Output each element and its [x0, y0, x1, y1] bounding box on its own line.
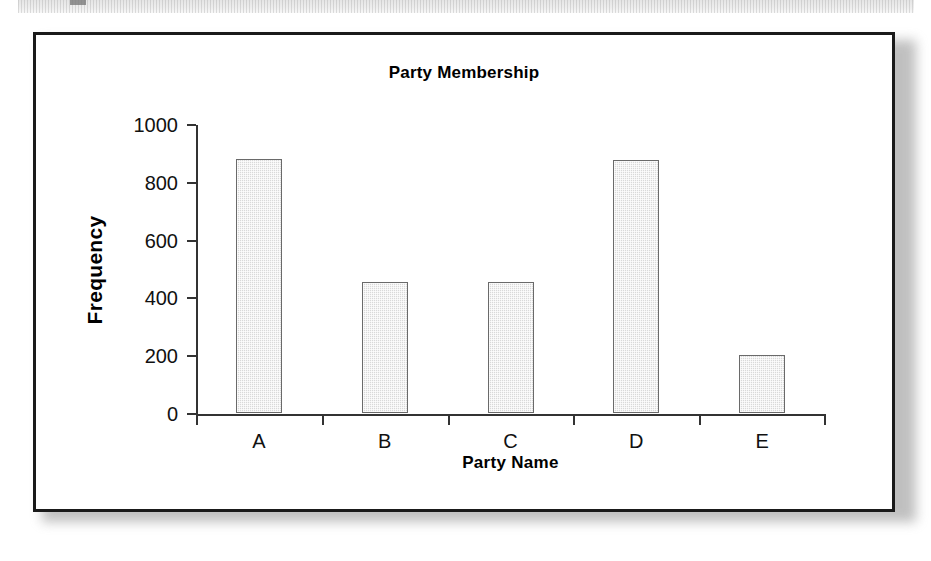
x-axis-tick: [196, 416, 198, 425]
x-axis-tick-label: C: [503, 430, 517, 453]
bar-a: [236, 159, 282, 413]
x-axis-title: Party Name: [196, 453, 825, 473]
y-axis-tick: 200: [187, 355, 196, 357]
y-axis-tick: 800: [187, 182, 196, 184]
x-axis-tick: [322, 416, 324, 425]
y-axis-tick: 1000: [187, 124, 196, 126]
x-axis-tick-label: A: [252, 430, 265, 453]
y-axis-tick-label: 400: [145, 287, 178, 310]
bar-c: [488, 282, 534, 413]
x-axis-tick-label: E: [755, 430, 768, 453]
y-axis-title: Frequency: [82, 125, 108, 415]
x-axis-tick: [448, 416, 450, 425]
y-axis-tick-label: 1000: [134, 114, 179, 137]
bar-b: [362, 282, 408, 413]
bar-e: [739, 355, 785, 413]
scan-band-blot: [70, 0, 86, 5]
chart-title: Party Membership: [36, 63, 892, 83]
y-axis-tick: 0: [187, 413, 196, 415]
y-axis-tick-label: 800: [145, 171, 178, 194]
scan-top-text-band: [18, 0, 914, 13]
x-axis-tick: [699, 416, 701, 425]
plot-area: 02004006008001000ABCDE: [196, 125, 825, 415]
chart-figure-frame: Party Membership Frequency 0200400600800…: [33, 32, 895, 512]
x-axis-tick: [824, 416, 826, 425]
y-axis-tick: 400: [187, 297, 196, 299]
x-axis-tick-label: D: [629, 430, 643, 453]
x-axis-tick-label: B: [378, 430, 391, 453]
y-axis-tick-label: 0: [167, 403, 178, 426]
y-axis-tick-label: 200: [145, 345, 178, 368]
x-axis-line: [196, 414, 826, 416]
bar-d: [613, 160, 659, 413]
x-axis-tick: [573, 416, 575, 425]
y-axis-tick-label: 600: [145, 229, 178, 252]
y-axis-tick: 600: [187, 240, 196, 242]
y-axis-line: [196, 125, 198, 416]
